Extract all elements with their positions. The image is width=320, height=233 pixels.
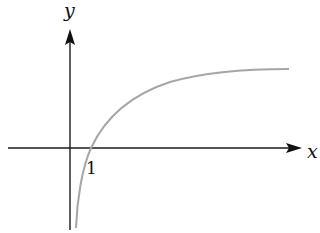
graph-svg: y x 1 [0, 0, 320, 233]
y-axis-label: y [63, 0, 75, 21]
x-axis-label: x [307, 140, 318, 162]
tick-label-one: 1 [86, 158, 97, 178]
log-graph-figure: y x 1 [0, 0, 320, 233]
